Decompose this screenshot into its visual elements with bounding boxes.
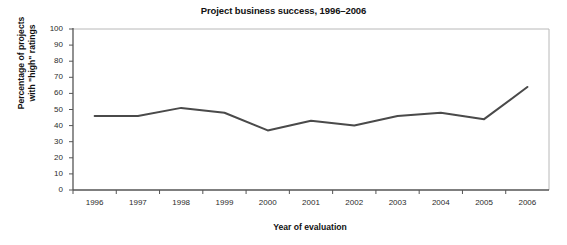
x-axis-tick-label: 2001 (291, 198, 331, 207)
y-axis-tick-label: 0 (37, 185, 63, 194)
y-axis-tick-label: 40 (37, 121, 63, 130)
y-axis-tick-label: 50 (37, 105, 63, 114)
plot-frame (73, 28, 549, 190)
y-axis-tick-label: 100 (37, 24, 63, 33)
x-axis-tick-label: 1996 (75, 198, 115, 207)
x-axis-tick-label: 2004 (421, 198, 461, 207)
x-axis-tick-label: 2005 (464, 198, 504, 207)
y-axis-tick-label: 90 (37, 40, 63, 49)
data-series-line (95, 87, 528, 130)
plot-area (0, 0, 567, 245)
y-axis-tick-label: 30 (37, 137, 63, 146)
y-axis-tick-label: 70 (37, 72, 63, 81)
y-axis-tick-label: 60 (37, 88, 63, 97)
x-axis-tick-label: 1998 (161, 198, 201, 207)
x-axis-tick-label: 2006 (507, 198, 547, 207)
chart-figure: Project business success, 1996–2006 Perc… (0, 0, 567, 245)
y-axis-tick-label: 20 (37, 153, 63, 162)
y-axis-tick-label: 80 (37, 56, 63, 65)
x-axis-tick-label: 2000 (248, 198, 288, 207)
x-axis-tick-label: 1997 (118, 198, 158, 207)
x-axis-tick-label: 2002 (334, 198, 374, 207)
x-axis-tick-label: 1999 (204, 198, 244, 207)
x-axis-tick-label: 2003 (378, 198, 418, 207)
y-axis-tick-label: 10 (37, 169, 63, 178)
